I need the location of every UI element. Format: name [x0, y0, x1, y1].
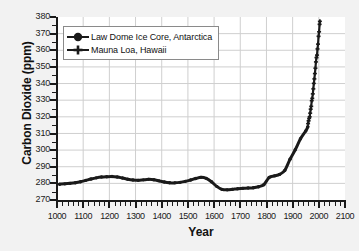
x-minor-tick: [277, 202, 278, 206]
y-axis-title: Carbon Dioxide (ppm): [20, 18, 34, 188]
x-minor-tick: [256, 202, 257, 206]
x-minor-tick: [167, 202, 168, 206]
x-minor-tick: [282, 202, 283, 206]
x-minor-tick: [68, 202, 69, 206]
x-minor-tick: [335, 202, 336, 206]
x-minor-tick: [88, 202, 89, 206]
co2-chart-figure: 270280290300310320330340350360370380 100…: [0, 0, 359, 251]
x-tick-1300: [135, 202, 137, 208]
x-minor-tick: [73, 202, 74, 206]
x-tick-1000: [56, 202, 58, 208]
x-minor-tick: [209, 202, 210, 206]
x-minor-tick: [225, 202, 226, 206]
x-tick-label-1700: 1700: [223, 211, 257, 221]
x-minor-tick: [272, 202, 273, 206]
x-minor-tick: [146, 202, 147, 206]
chart-legend: Law Dome Ice Core, Antarctica Mauna Loa,…: [63, 26, 219, 60]
x-minor-tick: [157, 202, 158, 206]
x-minor-tick: [151, 202, 152, 206]
x-minor-tick: [177, 202, 178, 206]
x-axis-line: [56, 200, 346, 202]
x-minor-tick: [193, 202, 194, 206]
x-tick-1400: [161, 202, 163, 208]
x-tick-label-1900: 1900: [276, 211, 310, 221]
x-minor-tick: [198, 202, 199, 206]
x-tick-1500: [187, 202, 189, 208]
x-minor-tick: [141, 202, 142, 206]
x-minor-tick: [78, 202, 79, 206]
x-tick-label-2000: 2000: [302, 211, 336, 221]
x-minor-tick: [329, 202, 330, 206]
x-minor-tick: [120, 202, 121, 206]
legend-label-mauna-loa: Mauna Loa, Hawaii: [91, 45, 166, 55]
x-minor-tick: [230, 202, 231, 206]
x-tick-1900: [292, 202, 294, 208]
x-tick-1200: [108, 202, 110, 208]
x-tick-1100: [82, 202, 84, 208]
x-tick-label-1100: 1100: [66, 211, 100, 221]
x-tick-label-1600: 1600: [197, 211, 231, 221]
x-tick-label-2100: 2100: [328, 211, 359, 221]
legend-label-law-dome: Law Dome Ice Core, Antarctica: [91, 32, 212, 42]
legend-entry-mauna-loa: Mauna Loa, Hawaii: [67, 43, 212, 56]
x-minor-tick: [115, 202, 116, 206]
x-minor-tick: [99, 202, 100, 206]
x-minor-tick: [62, 202, 63, 206]
x-minor-tick: [235, 202, 236, 206]
x-minor-tick: [324, 202, 325, 206]
x-tick-label-1200: 1200: [92, 211, 126, 221]
x-minor-tick: [314, 202, 315, 206]
x-minor-tick: [287, 202, 288, 206]
x-tick-label-1800: 1800: [250, 211, 284, 221]
x-tick-label-1000: 1000: [40, 211, 74, 221]
x-minor-tick: [298, 202, 299, 206]
x-minor-tick: [219, 202, 220, 206]
x-minor-tick: [261, 202, 262, 206]
x-axis-title: Year: [57, 225, 345, 239]
legend-entry-law-dome: Law Dome Ice Core, Antarctica: [67, 30, 212, 43]
x-tick-1800: [266, 202, 268, 208]
x-minor-tick: [340, 202, 341, 206]
x-minor-tick: [204, 202, 205, 206]
x-tick-label-1500: 1500: [171, 211, 205, 221]
x-minor-tick: [130, 202, 131, 206]
x-minor-tick: [94, 202, 95, 206]
y-axis-line: [56, 17, 58, 201]
x-minor-tick: [246, 202, 247, 206]
x-tick-label-1300: 1300: [119, 211, 153, 221]
x-tick-2100: [344, 202, 346, 208]
x-minor-tick: [172, 202, 173, 206]
x-minor-tick: [125, 202, 126, 206]
x-tick-1700: [239, 202, 241, 208]
y-tick-label-270: 270: [20, 195, 50, 204]
x-minor-tick: [308, 202, 309, 206]
plus-marker-icon: [67, 44, 89, 56]
filled-circle-marker-icon: [67, 31, 89, 43]
x-minor-tick: [303, 202, 304, 206]
x-minor-tick: [183, 202, 184, 206]
x-tick-2000: [318, 202, 320, 208]
x-minor-tick: [251, 202, 252, 206]
x-tick-label-1400: 1400: [145, 211, 179, 221]
x-tick-1600: [213, 202, 215, 208]
x-minor-tick: [104, 202, 105, 206]
